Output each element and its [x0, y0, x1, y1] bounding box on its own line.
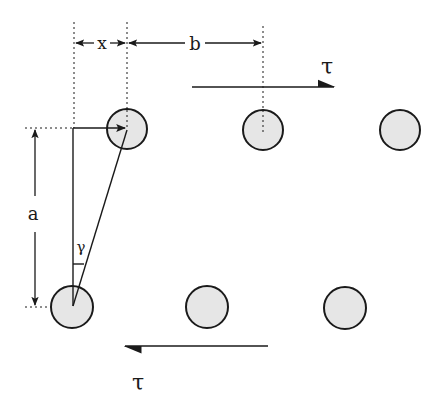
particle-bottom-1	[51, 286, 93, 328]
a-label: a	[28, 203, 39, 224]
displacement-geometry	[73, 128, 127, 306]
gamma-label: γ	[77, 238, 86, 256]
particles	[51, 109, 420, 329]
particle-bottom-3	[324, 287, 366, 329]
x-label: x	[97, 33, 107, 53]
guide-lines	[25, 22, 263, 307]
tau-top-label: τ	[321, 54, 333, 79]
tau-bottom-label: τ	[132, 370, 144, 395]
particle-bottom-2	[186, 286, 228, 328]
sheared-line	[73, 130, 127, 306]
shear-lattice-diagram: x b τ a γ τ	[0, 0, 442, 405]
particle-top-3	[380, 110, 420, 150]
b-label: b	[189, 33, 201, 54]
